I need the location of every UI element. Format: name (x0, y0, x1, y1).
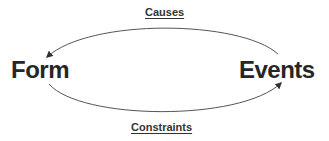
constraints-arc (49, 83, 281, 112)
events-node: Events (239, 58, 315, 82)
form-node: Form (11, 58, 69, 82)
constraints-label: Constraints (131, 122, 192, 133)
causes-arc (47, 28, 278, 57)
cycle-diagram: Causes Form Events Constraints (0, 0, 329, 141)
causes-label: Causes (145, 7, 184, 18)
